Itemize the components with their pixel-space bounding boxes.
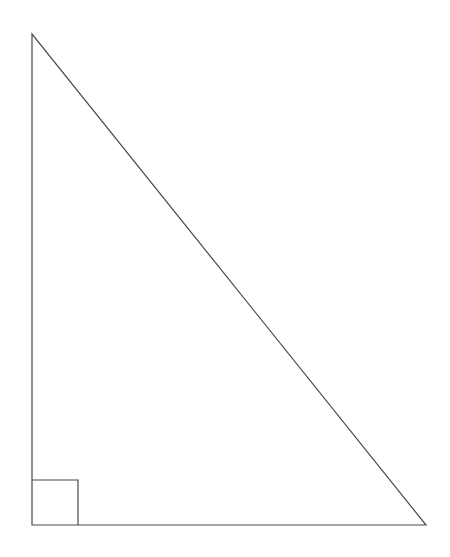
right-triangle-figure <box>0 0 450 557</box>
diagram-canvas <box>0 0 450 557</box>
